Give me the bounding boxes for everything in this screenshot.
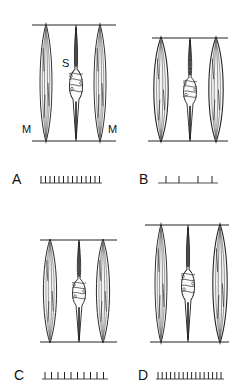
muscle-fiber-right — [213, 224, 227, 343]
muscle-fiber-right — [96, 239, 109, 343]
muscle-fiber-left — [40, 24, 52, 142]
panel-label-b: B — [139, 172, 148, 186]
muscle-label-right: M — [108, 124, 117, 135]
muscle-fiber-left — [43, 239, 56, 343]
spike-train-a — [40, 176, 102, 183]
muscle-fiber-left — [155, 224, 167, 343]
muscle-fiber-right — [94, 24, 106, 142]
spike-train-d — [156, 372, 224, 379]
panel-b — [148, 37, 228, 183]
spike-train-c — [42, 372, 108, 379]
spike-train-b — [158, 176, 218, 183]
muscle-fiber-left — [154, 37, 168, 142]
panel-d — [145, 224, 229, 379]
muscle-fiber-right — [209, 37, 223, 142]
muscle-spindle — [183, 38, 197, 141]
panel-label-a: A — [12, 172, 21, 186]
muscle-spindle — [72, 240, 86, 342]
spindle-label: S — [62, 58, 69, 69]
muscle-label-left: M — [22, 124, 31, 135]
panel-a — [32, 24, 116, 183]
panel-c — [40, 239, 117, 379]
muscle-spindle — [181, 225, 195, 342]
figure-canvas — [0, 0, 239, 385]
panel-label-c: C — [14, 368, 24, 382]
muscle-spindle — [69, 25, 83, 141]
panel-label-d: D — [138, 368, 148, 382]
